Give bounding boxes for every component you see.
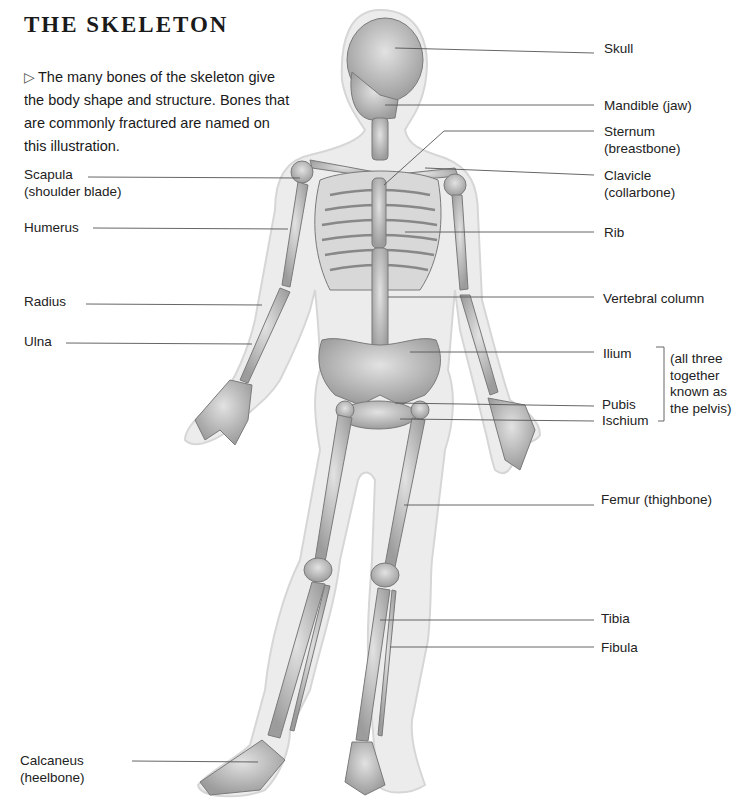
label-pubis: Pubis bbox=[602, 396, 636, 413]
label-sternum: Sternum (breastbone) bbox=[604, 123, 681, 157]
label-text: Vertebral column bbox=[603, 290, 704, 307]
label-text: Mandible (jaw) bbox=[604, 97, 692, 114]
label-femur: Femur (thighbone) bbox=[601, 491, 712, 508]
label-text: Humerus bbox=[24, 219, 79, 236]
label-text: Clavicle bbox=[604, 167, 675, 184]
label-text: Fibula bbox=[601, 639, 638, 656]
label-fibula: Fibula bbox=[601, 639, 638, 656]
label-clavicle: Clavicle (collarbone) bbox=[604, 167, 675, 201]
label-scapula: Scapula (shoulder blade) bbox=[24, 166, 122, 200]
label-text: Ulna bbox=[24, 333, 52, 350]
label-humerus: Humerus bbox=[24, 219, 79, 236]
label-radius: Radius bbox=[24, 293, 66, 310]
label-calcaneus: Calcaneus (heelbone) bbox=[20, 752, 85, 786]
label-ulna: Ulna bbox=[24, 333, 52, 350]
label-text: Skull bbox=[604, 40, 633, 57]
label-text: Rib bbox=[604, 224, 624, 241]
label-text: Tibia bbox=[601, 610, 630, 627]
label-tibia: Tibia bbox=[601, 610, 630, 627]
label-vertebral-column: Vertebral column bbox=[603, 290, 704, 307]
note-line: together bbox=[670, 368, 732, 385]
note-line: (all three bbox=[670, 351, 732, 368]
label-text: Femur (thighbone) bbox=[601, 491, 712, 508]
pelvis-note: (all three together known as the pelvis) bbox=[670, 351, 732, 417]
label-text: Sternum bbox=[604, 123, 681, 140]
label-text: Ischium bbox=[602, 412, 649, 429]
label-ischium: Ischium bbox=[602, 412, 649, 429]
label-text: Calcaneus bbox=[20, 752, 85, 769]
label-text: Pubis bbox=[602, 396, 636, 413]
label-subtext: (breastbone) bbox=[604, 140, 681, 157]
note-line: known as bbox=[670, 384, 732, 401]
note-line: the pelvis) bbox=[670, 401, 732, 418]
label-skull: Skull bbox=[604, 40, 633, 57]
label-text: Ilium bbox=[603, 345, 632, 362]
label-subtext: (collarbone) bbox=[604, 184, 675, 201]
label-rib: Rib bbox=[604, 224, 624, 241]
label-mandible: Mandible (jaw) bbox=[604, 97, 692, 114]
label-text: Scapula bbox=[24, 166, 122, 183]
label-subtext: (heelbone) bbox=[20, 769, 85, 786]
label-subtext: (shoulder blade) bbox=[24, 183, 122, 200]
label-ilium: Ilium bbox=[603, 345, 632, 362]
label-text: Radius bbox=[24, 293, 66, 310]
